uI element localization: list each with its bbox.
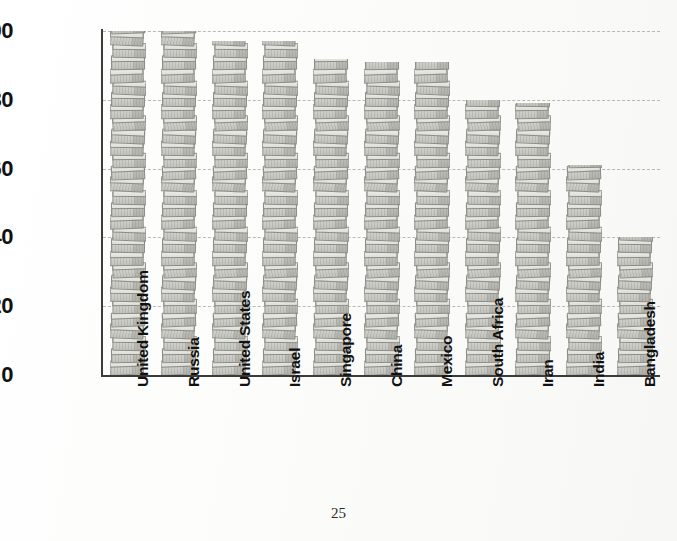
y-tick-label-40: 40 bbox=[0, 226, 13, 248]
y-tick-label-20: 20 bbox=[0, 295, 13, 317]
y-tick-label-60: 60 bbox=[0, 158, 13, 180]
plot-area bbox=[103, 31, 660, 375]
x-tick-label-united-kingdom: United Kingdom bbox=[135, 270, 151, 387]
book-icon bbox=[414, 62, 450, 70]
bar-russia bbox=[161, 31, 197, 375]
x-tick-label-bangladesh: Bangladesh bbox=[642, 301, 658, 387]
y-tick-label-80: 80 bbox=[0, 89, 13, 111]
x-tick-label-singapore: Singapore bbox=[338, 313, 354, 387]
x-tick-label-israel: Israel bbox=[287, 348, 303, 387]
x-tick-label-south-africa: South Africa bbox=[490, 298, 506, 387]
x-tick-label-russia: Russia bbox=[186, 337, 202, 387]
bar-mexico bbox=[414, 62, 450, 375]
page-canvas: Number of people out of every 100 who ca… bbox=[0, 0, 677, 541]
y-tick-label-0: 0 bbox=[1, 364, 13, 386]
x-tick-label-iran: Iran bbox=[540, 359, 556, 387]
bar-israel bbox=[262, 41, 298, 375]
book-icon bbox=[364, 62, 400, 70]
book-icon bbox=[465, 100, 501, 107]
x-tick-label-mexico: Mexico bbox=[439, 336, 455, 387]
bar-india bbox=[566, 165, 602, 375]
x-tick-label-china: China bbox=[389, 345, 405, 387]
book-icon bbox=[515, 103, 551, 107]
page-number: 25 bbox=[0, 505, 677, 522]
book-icon bbox=[567, 165, 602, 168]
y-tick-label-100: 100 bbox=[0, 20, 13, 42]
bar-china bbox=[364, 62, 400, 375]
x-tick-label-united-states: United States bbox=[237, 291, 253, 387]
book-icon bbox=[313, 59, 349, 71]
x-tick-label-india: India bbox=[591, 352, 607, 387]
bar-iran bbox=[515, 103, 551, 375]
